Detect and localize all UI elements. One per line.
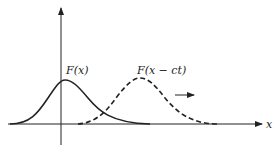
moving-wave-label: F(x − ct) — [136, 64, 186, 77]
wave-diagram: x F(x) F(x − ct) — [0, 0, 279, 149]
static-wave-curve — [10, 80, 150, 124]
moving-wave-curve — [78, 78, 218, 124]
static-wave-label: F(x) — [65, 64, 88, 77]
x-axis-label: x — [266, 118, 273, 131]
